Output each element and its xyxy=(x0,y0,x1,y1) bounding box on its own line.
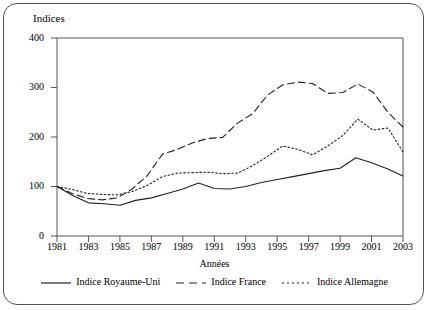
y-tick-100: 100 xyxy=(10,180,44,191)
x-axis-title: Années xyxy=(0,258,429,269)
series-line-dashed xyxy=(57,82,403,200)
y-tick-300: 300 xyxy=(10,81,44,92)
legend-swatch-dotted-icon xyxy=(282,278,312,286)
legend-label-france: Indice France xyxy=(211,276,266,287)
legend-swatch-dashed-icon xyxy=(176,278,206,286)
legend-item-allemagne: Indice Allemagne xyxy=(282,276,388,287)
data-series-layer xyxy=(57,82,403,205)
chart-legend: Indice Royaume-Uni Indice France Indice … xyxy=(0,276,429,287)
legend-item-royaume-uni: Indice Royaume-Uni xyxy=(41,276,160,287)
y-tick-400: 400 xyxy=(10,32,44,43)
legend-item-france: Indice France xyxy=(176,276,266,287)
legend-swatch-solid-icon xyxy=(41,278,71,286)
series-line-solid xyxy=(57,158,403,206)
y-tick-0: 0 xyxy=(10,230,44,241)
y-tick-200: 200 xyxy=(10,131,44,142)
plot-frame xyxy=(57,38,403,236)
chart-figure: Indices xyxy=(0,0,429,310)
y-axis-ticks xyxy=(51,38,57,236)
x-tick-2003: 2003 xyxy=(383,241,423,252)
legend-label-allemagne: Indice Allemagne xyxy=(317,276,388,287)
legend-label-royaume-uni: Indice Royaume-Uni xyxy=(76,276,160,287)
